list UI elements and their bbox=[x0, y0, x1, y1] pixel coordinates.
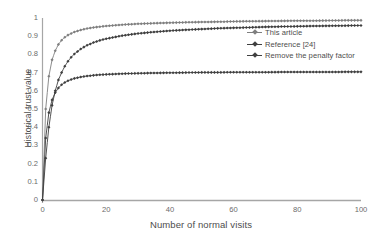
series-marker bbox=[232, 26, 235, 29]
series-marker bbox=[124, 23, 127, 26]
series-marker bbox=[194, 28, 197, 31]
series-marker bbox=[162, 30, 165, 33]
series-marker bbox=[334, 70, 337, 73]
series-marker bbox=[315, 71, 318, 74]
series-marker bbox=[156, 22, 159, 25]
series-marker bbox=[108, 73, 111, 76]
series-marker bbox=[359, 19, 362, 22]
legend-label: This article bbox=[265, 28, 302, 37]
series-marker bbox=[95, 40, 98, 43]
series-marker bbox=[248, 20, 251, 23]
legend-item[interactable]: Reference [24] bbox=[247, 39, 369, 51]
series-marker bbox=[347, 19, 350, 22]
series-marker bbox=[86, 27, 89, 30]
series-marker bbox=[238, 20, 241, 23]
series-marker bbox=[140, 32, 143, 35]
series-marker bbox=[89, 26, 92, 29]
x-tick-label: 60 bbox=[219, 205, 249, 214]
series-marker bbox=[226, 20, 229, 23]
series-marker bbox=[108, 37, 111, 40]
series-marker bbox=[203, 71, 206, 74]
series-marker bbox=[159, 30, 162, 33]
series-marker bbox=[222, 71, 225, 74]
series-marker bbox=[277, 71, 280, 74]
series-marker bbox=[210, 71, 213, 74]
series-marker bbox=[146, 72, 149, 75]
series-marker bbox=[273, 71, 276, 74]
x-tick-label: 80 bbox=[282, 205, 312, 214]
series-marker bbox=[289, 19, 292, 22]
series-marker bbox=[152, 30, 155, 33]
series-marker bbox=[79, 28, 82, 31]
series-marker bbox=[95, 26, 98, 29]
series-marker bbox=[197, 71, 200, 74]
series-marker bbox=[165, 29, 168, 32]
series-marker bbox=[321, 19, 324, 22]
legend-item[interactable]: Remove the penalty factor bbox=[247, 50, 369, 62]
legend-item[interactable]: This article bbox=[247, 27, 369, 39]
series-marker bbox=[270, 19, 273, 22]
series-marker bbox=[350, 19, 353, 22]
series-marker bbox=[194, 71, 197, 74]
series-marker bbox=[219, 27, 222, 30]
series-marker bbox=[130, 72, 133, 75]
series-marker bbox=[321, 71, 324, 74]
series-marker bbox=[137, 22, 140, 25]
chart-figure: 00.10.20.30.40.50.60.70.80.91 0204060801… bbox=[0, 0, 373, 239]
series-marker bbox=[165, 71, 168, 74]
x-axis-title: Number of normal visits bbox=[42, 219, 360, 230]
series-marker bbox=[143, 22, 146, 25]
series-marker bbox=[356, 70, 359, 73]
series-marker bbox=[293, 71, 296, 74]
series-marker bbox=[226, 26, 229, 29]
series-marker bbox=[280, 19, 283, 22]
series-marker bbox=[114, 35, 117, 38]
series-marker bbox=[168, 29, 171, 32]
series-marker bbox=[337, 70, 340, 73]
series-marker bbox=[149, 71, 152, 74]
series-marker bbox=[203, 20, 206, 23]
series-marker bbox=[245, 71, 248, 74]
series-marker bbox=[121, 72, 124, 75]
series-marker bbox=[159, 22, 162, 25]
series-marker bbox=[235, 71, 238, 74]
series-marker bbox=[117, 35, 120, 38]
series-marker bbox=[66, 79, 69, 82]
series-marker bbox=[273, 19, 276, 22]
series-marker bbox=[172, 29, 175, 32]
series-marker bbox=[356, 19, 359, 22]
legend-marker-icon bbox=[247, 28, 262, 37]
x-tick-label: 20 bbox=[91, 205, 121, 214]
series-marker bbox=[152, 22, 155, 25]
series-marker bbox=[242, 26, 245, 29]
legend-marker-icon bbox=[247, 51, 262, 60]
series-marker bbox=[194, 21, 197, 24]
series-marker bbox=[111, 24, 114, 27]
series-marker bbox=[73, 77, 76, 80]
series-marker bbox=[117, 23, 120, 26]
series-marker bbox=[299, 19, 302, 22]
series-marker bbox=[318, 71, 321, 74]
series-marker bbox=[222, 27, 225, 30]
series-marker bbox=[178, 29, 181, 32]
series-marker bbox=[79, 75, 82, 78]
series-marker bbox=[133, 72, 136, 75]
series-marker bbox=[203, 27, 206, 30]
series-marker bbox=[47, 126, 50, 129]
series-marker bbox=[216, 71, 219, 74]
series-marker bbox=[124, 34, 127, 37]
series-marker bbox=[70, 78, 73, 81]
series-marker bbox=[156, 30, 159, 33]
series-marker bbox=[127, 72, 130, 75]
series-marker bbox=[133, 32, 136, 35]
series-marker bbox=[117, 72, 120, 75]
series-marker bbox=[130, 33, 133, 36]
series-marker bbox=[149, 31, 152, 34]
series-marker bbox=[51, 58, 54, 61]
series-marker bbox=[111, 73, 114, 76]
series-marker bbox=[149, 22, 152, 25]
series-marker bbox=[359, 70, 362, 73]
series-marker bbox=[105, 24, 108, 27]
x-tick-label: 40 bbox=[155, 205, 185, 214]
series-marker bbox=[162, 71, 165, 74]
